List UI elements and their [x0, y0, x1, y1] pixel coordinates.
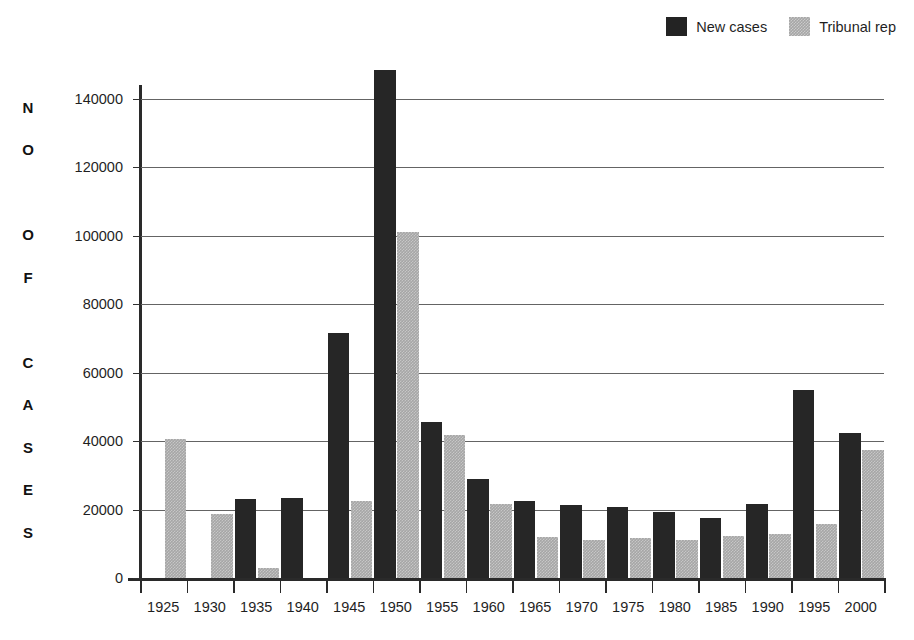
- x-axis-line: [128, 578, 886, 581]
- bar-tribunal-rep: [816, 524, 838, 578]
- bar-group: [838, 99, 885, 578]
- y-axis-title-letter: S: [23, 426, 33, 469]
- x-axis-tick-mark: [652, 580, 654, 593]
- x-axis-tick-label: 1935: [240, 599, 272, 615]
- x-axis-tick-mark: [791, 580, 793, 593]
- bar-new-cases: [514, 501, 536, 578]
- bar-new-cases: [607, 507, 629, 578]
- y-axis-tick-mark: [133, 578, 141, 579]
- y-axis-tick-label: 100000: [75, 228, 123, 244]
- bar-tribunal-rep: [351, 501, 373, 578]
- x-axis-tick-label: 1950: [380, 599, 412, 615]
- x-axis-tick-mark: [745, 580, 747, 593]
- y-axis-tick-label: 40000: [83, 433, 123, 449]
- x-axis-tick-mark: [884, 580, 886, 593]
- x-axis-tick-label: 1995: [798, 599, 830, 615]
- y-axis-tick-label: 140000: [75, 91, 123, 107]
- bar-new-cases: [839, 433, 861, 578]
- bar-new-cases: [235, 499, 257, 578]
- bar-group: [233, 99, 280, 578]
- bar-group: [419, 99, 466, 578]
- x-axis-tick-mark: [838, 580, 840, 593]
- bar-tribunal-rep: [583, 540, 605, 578]
- legend-label-new-cases: New cases: [696, 19, 767, 35]
- y-axis-tick-label: 20000: [83, 502, 123, 518]
- bar-tribunal-rep: [211, 514, 233, 578]
- bar-new-cases: [653, 512, 675, 578]
- legend-label-tribunal-rep: Tribunal rep: [819, 19, 896, 35]
- y-axis-title-letter: O: [22, 129, 34, 172]
- bar-tribunal-rep: [676, 540, 698, 578]
- x-axis-tick-label: 2000: [845, 599, 877, 615]
- bar-group: [652, 99, 699, 578]
- bar-tribunal-rep: [769, 534, 791, 578]
- x-axis-tick-label: 1945: [333, 599, 365, 615]
- x-axis-tick-label: 1990: [752, 599, 784, 615]
- bar-tribunal-rep: [723, 536, 745, 578]
- x-axis-tick-label: 1940: [287, 599, 319, 615]
- bar-new-cases: [746, 504, 768, 578]
- x-axis-tick-mark: [373, 580, 375, 593]
- bar-new-cases: [374, 70, 396, 578]
- legend-swatch-new-cases: [666, 17, 687, 36]
- y-axis-tick-label: 80000: [83, 296, 123, 312]
- x-axis-tick-mark: [512, 580, 514, 593]
- bar-group: [140, 99, 187, 578]
- x-axis-tick-label: 1960: [473, 599, 505, 615]
- bar-tribunal-rep: [444, 435, 466, 578]
- bar-tribunal-rep: [537, 537, 559, 578]
- bar-group: [559, 99, 606, 578]
- chart-plot-area: 020000400006000080000100000120000140000 …: [140, 99, 884, 578]
- bar-new-cases: [700, 518, 722, 578]
- x-axis-tick-mark: [280, 580, 282, 593]
- y-axis-title-letter: E: [23, 469, 33, 512]
- y-axis-title: NO.OF.CASES: [18, 86, 38, 554]
- y-axis-title-letter: C: [23, 341, 34, 384]
- y-axis-tick-label: 120000: [75, 159, 123, 175]
- bar-group: [745, 99, 792, 578]
- x-axis-tick-label: 1970: [566, 599, 598, 615]
- y-axis-title-letter: O: [22, 214, 34, 257]
- bar-group: [698, 99, 745, 578]
- y-axis-tick-label: 60000: [83, 365, 123, 381]
- bar-tribunal-rep: [258, 568, 280, 578]
- x-axis-tick-label: 1925: [147, 599, 179, 615]
- y-axis-title-letter: S: [23, 511, 33, 554]
- chart-legend: New cases Tribunal rep: [666, 17, 896, 36]
- legend-item-new-cases: New cases: [666, 17, 767, 36]
- x-axis-tick-mark: [187, 580, 189, 593]
- bar-new-cases: [467, 479, 489, 578]
- bar-group: [512, 99, 559, 578]
- bar-new-cases: [560, 505, 582, 578]
- bar-new-cases: [421, 422, 443, 578]
- bar-group: [326, 99, 373, 578]
- y-axis-title-letter: N: [23, 86, 34, 129]
- bar-tribunal-rep: [165, 439, 187, 578]
- x-axis-tick-mark: [466, 580, 468, 593]
- x-axis-tick-mark: [698, 580, 700, 593]
- y-axis-tick-label: 0: [115, 570, 123, 586]
- x-axis-tick-label: 1980: [659, 599, 691, 615]
- x-axis-tick-label: 1985: [705, 599, 737, 615]
- bar-group: [791, 99, 838, 578]
- x-axis-tick-mark: [140, 580, 142, 593]
- bar-tribunal-rep: [862, 450, 884, 578]
- bar-group: [373, 99, 420, 578]
- y-axis-title-letter: F: [23, 256, 32, 299]
- y-axis-title-letter: A: [23, 384, 34, 427]
- bar-new-cases: [281, 498, 303, 578]
- x-axis-tick-mark: [233, 580, 235, 593]
- bar-new-cases: [328, 333, 350, 578]
- legend-swatch-tribunal-rep: [789, 17, 810, 36]
- x-axis-tick-label: 1930: [194, 599, 226, 615]
- bar-group: [187, 99, 234, 578]
- x-axis-tick-mark: [605, 580, 607, 593]
- bar-new-cases: [793, 390, 815, 578]
- x-axis-tick-mark: [559, 580, 561, 593]
- bar-tribunal-rep: [397, 232, 419, 578]
- x-axis-tick-label: 1965: [519, 599, 551, 615]
- bar-group: [605, 99, 652, 578]
- x-axis-tick-mark: [419, 580, 421, 593]
- bar-group: [280, 99, 327, 578]
- x-axis-tick-label: 1955: [426, 599, 458, 615]
